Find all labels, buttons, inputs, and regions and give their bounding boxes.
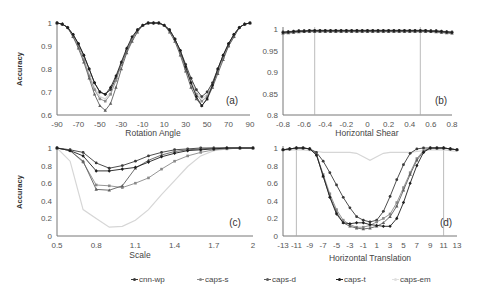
y-tick-label: 0.8 bbox=[267, 162, 279, 171]
data-point bbox=[422, 147, 425, 150]
y-tick-label: 0.7 bbox=[41, 88, 53, 97]
data-point bbox=[195, 88, 198, 91]
x-tick-label: 50 bbox=[203, 120, 212, 129]
y-tick-label: 1 bbox=[274, 144, 279, 153]
x-tick-label: 0.6 bbox=[425, 120, 437, 129]
x-tick-label: 11 bbox=[439, 241, 448, 250]
data-point bbox=[342, 196, 345, 199]
data-point bbox=[115, 79, 118, 82]
panel-b: 0.80.850.90.951-0.8-0.6-0.4-0.200.20.40.… bbox=[262, 25, 458, 138]
data-point bbox=[95, 162, 98, 165]
x-tick-label: 0.5 bbox=[51, 241, 63, 250]
data-point bbox=[109, 102, 112, 105]
caps-d-marker-icon bbox=[264, 279, 271, 280]
data-point bbox=[402, 201, 405, 205]
panel-c: 00.20.40.60.810.50.81.11.41.72ScaleAccur… bbox=[15, 144, 256, 260]
legend-label: caps-em bbox=[400, 275, 431, 284]
data-point bbox=[93, 93, 96, 96]
y-tick-label: 0.8 bbox=[41, 65, 53, 74]
x-tick-label: 0.8 bbox=[91, 241, 103, 250]
data-point bbox=[402, 163, 405, 166]
legend: cnn-wp caps-s caps-d caps-t caps-em bbox=[0, 275, 479, 289]
legend-item-caps-s: caps-s bbox=[197, 275, 229, 284]
y-tick-label: 0.4 bbox=[267, 197, 279, 206]
data-point bbox=[335, 184, 338, 187]
y-tick-label: 0 bbox=[48, 232, 53, 241]
panel-a: 0.60.70.80.91-90-70-50-30-101030507090Ro… bbox=[15, 19, 255, 138]
y-tick-label: 0.6 bbox=[267, 179, 279, 188]
data-point bbox=[328, 171, 331, 174]
data-point bbox=[206, 91, 209, 94]
x-tick-label: -0.6 bbox=[297, 120, 311, 129]
data-point bbox=[121, 167, 124, 171]
y-tick-label: 1 bbox=[48, 144, 53, 153]
y-tick-label: 0.9 bbox=[267, 68, 279, 77]
panel-label: (c) bbox=[229, 217, 241, 228]
y-tick-label: 0.8 bbox=[267, 111, 279, 120]
data-point bbox=[186, 155, 189, 158]
x-tick-label: 2 bbox=[251, 241, 256, 250]
legend-item-cnn-wp: cnn-wp bbox=[131, 275, 165, 284]
data-point bbox=[98, 104, 101, 107]
cnn-wp-marker-icon bbox=[131, 279, 138, 280]
y-tick-label: 0.8 bbox=[41, 162, 53, 171]
data-point bbox=[82, 151, 85, 154]
y-tick-label: 1 bbox=[274, 25, 279, 34]
data-point bbox=[147, 177, 150, 180]
y-axis-label: Accuracy bbox=[15, 174, 24, 209]
panel-label: (a) bbox=[226, 95, 238, 106]
data-point bbox=[114, 86, 117, 89]
panel-label: (b) bbox=[435, 95, 447, 106]
data-point bbox=[108, 185, 111, 188]
data-point bbox=[355, 215, 358, 218]
data-point bbox=[121, 164, 124, 167]
data-point bbox=[99, 98, 102, 101]
data-point bbox=[173, 160, 176, 163]
series-line-cnn-wp bbox=[283, 148, 457, 222]
x-tick-label: -1 bbox=[360, 241, 368, 250]
x-tick-label: -9 bbox=[306, 241, 314, 250]
data-point bbox=[147, 155, 150, 158]
y-tick-label: 0.2 bbox=[41, 214, 53, 223]
y-tick-label: 0.95 bbox=[262, 47, 278, 56]
data-point bbox=[134, 182, 137, 185]
data-point bbox=[362, 221, 365, 225]
legend-item-caps-t: caps-t bbox=[336, 275, 366, 284]
x-tick-label: -0.4 bbox=[318, 120, 332, 129]
x-tick-label: 30 bbox=[181, 120, 190, 129]
data-point bbox=[95, 184, 98, 187]
data-point bbox=[389, 195, 392, 198]
legend-item-caps-em: caps-em bbox=[392, 275, 431, 284]
data-point bbox=[134, 160, 137, 163]
y-tick-label: 0 bbox=[274, 232, 279, 241]
x-tick-label: -3 bbox=[346, 241, 354, 250]
data-point bbox=[109, 93, 112, 96]
x-axis-label: Rotation Angle bbox=[125, 128, 181, 138]
x-tick-label: -0.8 bbox=[276, 120, 290, 129]
y-tick-label: 0.6 bbox=[41, 111, 53, 120]
y-tick-label: 0.4 bbox=[41, 197, 53, 206]
data-point bbox=[395, 178, 398, 181]
x-tick-label: 3 bbox=[388, 241, 393, 250]
x-tick-label: -13 bbox=[277, 241, 289, 250]
x-tick-label: 5 bbox=[401, 241, 406, 250]
data-point bbox=[382, 217, 385, 220]
x-tick-label: -50 bbox=[94, 120, 106, 129]
x-tick-label: -5 bbox=[333, 241, 341, 250]
y-tick-label: 0.2 bbox=[267, 214, 279, 223]
x-tick-label: 1 bbox=[374, 241, 379, 250]
x-tick-label: 1.7 bbox=[208, 241, 220, 250]
legend-item-caps-d: caps-d bbox=[264, 275, 296, 284]
data-point bbox=[415, 164, 418, 168]
y-tick-label: 1 bbox=[48, 19, 53, 28]
x-tick-label: 0.4 bbox=[404, 120, 416, 129]
figure: 0.60.70.80.91-90-70-50-30-101030507090Ro… bbox=[0, 0, 479, 296]
x-tick-label: -70 bbox=[73, 120, 85, 129]
panel-label: (d) bbox=[440, 217, 452, 228]
x-tick-label: -7 bbox=[320, 241, 328, 250]
data-point bbox=[108, 169, 111, 173]
x-tick-label: 1.4 bbox=[169, 241, 181, 250]
data-point bbox=[382, 210, 385, 213]
x-tick-label: 90 bbox=[246, 120, 255, 129]
data-point bbox=[415, 147, 418, 150]
